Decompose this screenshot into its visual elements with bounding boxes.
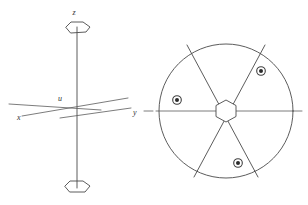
dot-left [173, 96, 182, 105]
x-axis-line [22, 98, 128, 116]
dot-lower [234, 159, 243, 168]
label-y: y [132, 108, 137, 117]
rotor-cross-section-group [144, 44, 302, 178]
diagram-canvas: z u x y [0, 0, 308, 205]
figure-root: z u x y [0, 0, 308, 205]
dot-upper-right-core [259, 69, 263, 73]
top-hexagon-shape [66, 22, 90, 33]
dot-left-core [175, 98, 179, 102]
center-hexagon [216, 100, 236, 122]
label-x: x [16, 113, 21, 122]
dot-upper-right [257, 67, 266, 76]
label-u: u [58, 94, 62, 103]
dot-lower-core [236, 161, 240, 165]
label-z: z [71, 8, 76, 17]
bottom-hexagon-shape [65, 181, 90, 192]
coordinate-axes-group: z u x y [9, 8, 137, 192]
